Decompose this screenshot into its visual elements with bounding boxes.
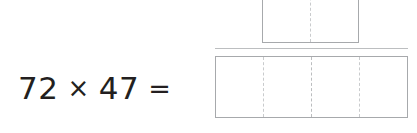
answer-cell[interactable] xyxy=(359,57,407,117)
equation-expression: 72 × 47 = xyxy=(18,67,171,109)
answer-cell[interactable] xyxy=(311,57,359,117)
horizontal-separator-rule xyxy=(215,48,408,49)
final-answer-row[interactable] xyxy=(215,56,408,118)
equals-sign: = xyxy=(148,73,171,104)
answer-cell[interactable] xyxy=(263,0,310,42)
answer-cell[interactable] xyxy=(216,57,263,117)
answer-cell[interactable] xyxy=(310,0,358,42)
second-factor: 47 xyxy=(99,70,139,106)
answer-cell[interactable] xyxy=(263,57,311,117)
partial-product-answer-row[interactable] xyxy=(262,0,359,43)
first-factor: 72 xyxy=(18,70,58,106)
multiplication-operator: × xyxy=(67,73,89,103)
multiplication-worksheet-problem: 72 × 47 = xyxy=(0,0,417,133)
